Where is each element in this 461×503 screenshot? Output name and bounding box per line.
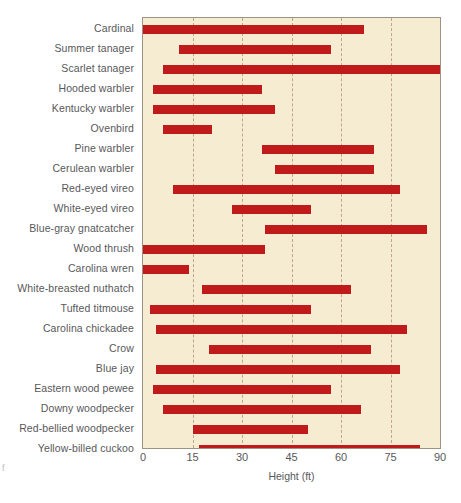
range-bar (232, 205, 311, 214)
range-bar (156, 365, 400, 374)
x-tick-label: 15 (186, 451, 198, 463)
category-label: Red-bellied woodpecker (0, 418, 138, 438)
category-axis-labels: CardinalSummer tanagerScarlet tanagerHoo… (0, 18, 138, 458)
category-label: Tufted titmouse (0, 298, 138, 318)
category-label: Ovenbird (0, 118, 138, 138)
category-label: Scarlet tanager (0, 58, 138, 78)
category-label: Hooded warbler (0, 78, 138, 98)
figure-corner-mark: f (2, 463, 5, 473)
plot-area (142, 17, 441, 449)
category-label: Cardinal (0, 18, 138, 38)
category-label: Wood thrush (0, 238, 138, 258)
category-label: Pine warbler (0, 138, 138, 158)
range-bar (153, 385, 331, 394)
x-tick-label: 75 (384, 451, 396, 463)
range-bar (163, 125, 213, 134)
category-label: Blue-gray gnatcatcher (0, 218, 138, 238)
gridline (193, 18, 194, 448)
range-bar (163, 65, 440, 74)
range-bar (153, 105, 275, 114)
range-bar (150, 305, 312, 314)
range-bar (143, 25, 364, 34)
range-bar (209, 345, 371, 354)
x-tick-label: 30 (236, 451, 248, 463)
category-label: Blue jay (0, 358, 138, 378)
range-bar (275, 165, 374, 174)
category-label: White-breasted nuthatch (0, 278, 138, 298)
range-bar (173, 185, 401, 194)
category-label: Crow (0, 338, 138, 358)
category-label: Eastern wood pewee (0, 378, 138, 398)
category-label: Carolina wren (0, 258, 138, 278)
category-label: Yellow-billed cuckoo (0, 438, 138, 458)
bird-foraging-height-chart: CardinalSummer tanagerScarlet tanagerHoo… (0, 0, 461, 503)
range-bar (163, 405, 361, 414)
gridline (242, 18, 243, 448)
x-axis-title: Height (ft) (142, 470, 441, 482)
x-tick-label: 60 (335, 451, 347, 463)
category-label: Carolina chickadee (0, 318, 138, 338)
x-tick-label: 0 (140, 451, 146, 463)
range-bar (202, 285, 351, 294)
range-bar (193, 425, 309, 434)
category-label: Kentucky warbler (0, 98, 138, 118)
category-label: Red-eyed vireo (0, 178, 138, 198)
x-axis-ticks: 0153045607590 (142, 449, 441, 469)
x-tick-label: 90 (434, 451, 446, 463)
category-label: Downy woodpecker (0, 398, 138, 418)
category-label: White-eyed vireo (0, 198, 138, 218)
range-bar (143, 265, 189, 274)
range-bar (143, 245, 265, 254)
range-bar (265, 225, 427, 234)
range-bar (153, 85, 262, 94)
range-bar (156, 325, 407, 334)
x-tick-label: 45 (285, 451, 297, 463)
category-label: Cerulean warbler (0, 158, 138, 178)
range-bar (179, 45, 331, 54)
category-label: Summer tanager (0, 38, 138, 58)
range-bar (262, 145, 374, 154)
